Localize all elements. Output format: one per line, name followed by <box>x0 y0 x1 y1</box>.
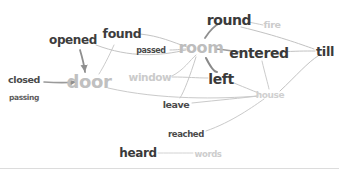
graph-node-heard[interactable]: heard <box>119 147 156 159</box>
graph-edge <box>280 56 318 91</box>
graph-edge <box>108 88 258 98</box>
graph-edge <box>192 96 258 103</box>
graph-node-found[interactable]: found <box>103 28 142 41</box>
edge-layer <box>0 0 339 174</box>
graph-edge <box>262 61 269 89</box>
graph-node-entered[interactable]: entered <box>229 46 288 60</box>
graph-node-door[interactable]: door <box>67 73 112 91</box>
graph-edge <box>99 45 114 74</box>
graph-node-round[interactable]: round <box>207 13 251 27</box>
graph-node-house[interactable]: house <box>256 91 284 100</box>
graph-node-leave[interactable]: leave <box>163 100 190 110</box>
footer-divider <box>0 168 339 169</box>
graph-node-fire[interactable]: fire <box>264 20 281 30</box>
graph-edge <box>172 77 208 78</box>
graph-node-window[interactable]: window <box>129 72 172 83</box>
word-graph-figure: closedpassingopenedfounddoorpassedwindow… <box>0 0 339 174</box>
graph-node-closed[interactable]: closed <box>8 75 40 85</box>
graph-node-reached[interactable]: reached <box>168 130 204 139</box>
graph-node-till[interactable]: till <box>316 45 334 58</box>
graph-node-opened[interactable]: opened <box>49 34 97 46</box>
graph-edge <box>180 57 196 98</box>
graph-node-words[interactable]: words <box>194 150 221 159</box>
graph-edge <box>206 99 264 131</box>
graph-edge <box>80 50 85 72</box>
graph-edge <box>172 55 196 76</box>
graph-edge <box>206 58 217 72</box>
graph-node-passed[interactable]: passed <box>136 47 165 55</box>
graph-node-left[interactable]: left <box>208 72 233 86</box>
graph-node-room[interactable]: room <box>179 40 224 56</box>
graph-node-passing[interactable]: passing <box>9 94 39 102</box>
